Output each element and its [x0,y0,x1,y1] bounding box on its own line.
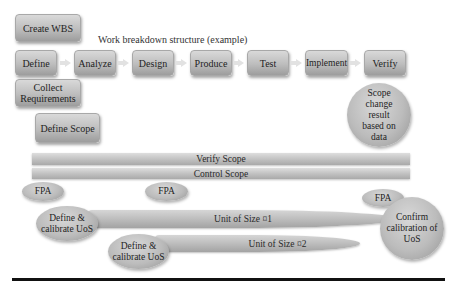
arrow-right-icon [65,59,71,67]
step-define: Define [15,50,57,76]
create-wbs-box: Create WBS [15,14,81,42]
step-label: Produce [195,58,228,69]
define-calibrate-ellipse-1: Define & calibrate UoS [36,206,98,241]
step-verify: Verify [364,50,406,76]
define-calibrate-ellipse-2: Define & calibrate UoS [108,234,169,269]
collect-requirements-box: Collect Requirements [15,79,81,107]
scope-change-label: Scope change result based on data [357,88,401,143]
create-wbs-label: Create WBS [23,23,73,34]
fpa-label: FPA [158,186,175,197]
step-label: Analyze [78,58,111,69]
step-test: Test [247,50,289,76]
define-calibrate-label: Define & calibrate UoS [36,213,98,235]
arrow-right-icon [296,59,302,67]
step-implement: Implement [305,50,348,76]
fpa-ellipse: FPA [145,182,188,201]
unit-of-size-1-bar: Unit of Size ¤1 [88,210,398,228]
scope-change-circle: Scope change result based on data [347,83,411,147]
define-scope-box: Define Scope [35,113,100,143]
step-produce: Produce [190,50,232,76]
arrow-right-icon [355,59,361,67]
step-label: Verify [373,58,398,69]
step-label: Design [139,58,167,69]
arrow-right-icon [181,59,187,67]
arrow-right-icon [238,59,244,67]
step-analyze: Analyze [74,50,116,76]
bottom-rule [12,278,445,281]
control-scope-bar: Control Scope [32,168,410,179]
step-label: Define [22,58,49,69]
collect-requirements-label: Collect Requirements [16,82,80,104]
unit-of-size-1-label: Unit of Size ¤1 [214,214,272,224]
define-scope-label: Define Scope [40,123,94,134]
verify-scope-bar: Verify Scope [32,153,410,165]
step-label: Implement [306,58,347,69]
control-scope-label: Control Scope [194,169,249,179]
arrow-right-icon [123,59,129,67]
step-design: Design [132,50,174,76]
fpa-label: FPA [375,193,392,204]
unit-of-size-2-label: Unit of Size ¤2 [209,239,307,249]
fpa-ellipse: FPA [22,182,64,201]
confirm-calibration-circle: Confirm calibration of UoS [380,197,444,260]
unit-of-size-2-bar: Unit of Size ¤2 [155,235,360,252]
confirm-calibration-label: Confirm calibration of UoS [386,212,438,245]
fpa-label: FPA [35,186,52,197]
diagram-title: Work breakdown structure (example) [98,34,247,45]
verify-scope-label: Verify Scope [196,154,245,164]
define-calibrate-label: Define & calibrate UoS [108,241,169,263]
step-label: Test [260,58,277,69]
